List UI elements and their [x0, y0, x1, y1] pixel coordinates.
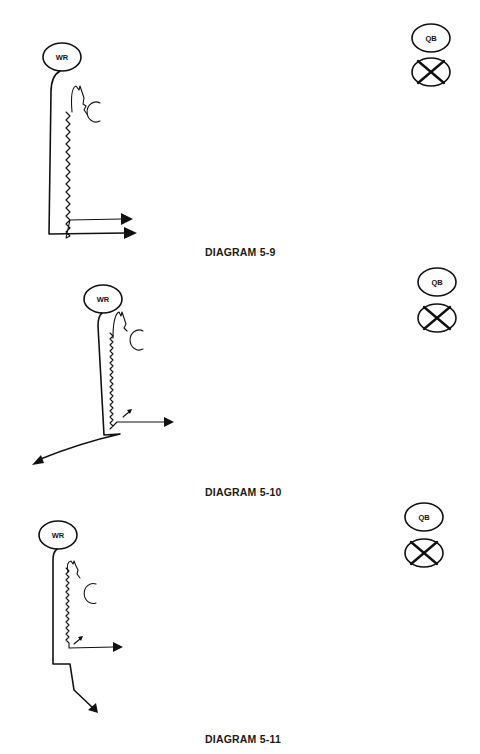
- receiver-route: [53, 549, 93, 708]
- quarterback-label: QB: [431, 278, 443, 287]
- defender-marker: [130, 330, 143, 350]
- defender-head-path: [67, 561, 80, 578]
- defender-arrow-icon: [113, 642, 123, 652]
- diagram-5-11: WR QB DIAGRAM 5-11: [0, 500, 480, 754]
- wide-receiver-label: WR: [56, 53, 69, 62]
- wide-receiver-label: WR: [52, 531, 65, 540]
- diagram-5-9: WR QB DIAGRAM 5-9: [0, 0, 480, 260]
- defender-head-path: [113, 312, 127, 338]
- defender-backpedal-zigzag: [66, 568, 114, 648]
- quarterback-label: QB: [418, 513, 430, 522]
- quarterback-label: QB: [425, 34, 437, 43]
- diagram-caption: DIAGRAM 5-9: [205, 246, 275, 258]
- play-diagram-5-10: WR QB: [0, 260, 480, 500]
- defender-backpedal-zigzag: [110, 333, 166, 429]
- defender-marker: [87, 102, 100, 122]
- defender-head-path: [72, 86, 88, 114]
- wide-receiver-label: WR: [97, 295, 110, 304]
- route-arrow-icon: [32, 455, 44, 465]
- diagram-caption: DIAGRAM 5-10: [205, 486, 282, 498]
- route-arrow-icon: [124, 227, 137, 239]
- diagram-caption: DIAGRAM 5-11: [205, 733, 281, 745]
- read-arrow: [74, 639, 80, 644]
- defender-arrow-icon: [164, 417, 174, 427]
- play-diagram-5-11: WR QB: [0, 500, 480, 754]
- defender-marker: [84, 584, 96, 604]
- diagram-5-10: WR QB DIAGRAM 5-10: [0, 260, 480, 500]
- defender-arrow-icon: [121, 213, 133, 225]
- receiver-route: [49, 71, 126, 234]
- defender-backpedal-zigzag: [66, 112, 122, 238]
- receiver-route: [38, 313, 120, 460]
- play-diagram-5-9: WR QB: [0, 0, 480, 260]
- read-arrow: [123, 412, 129, 417]
